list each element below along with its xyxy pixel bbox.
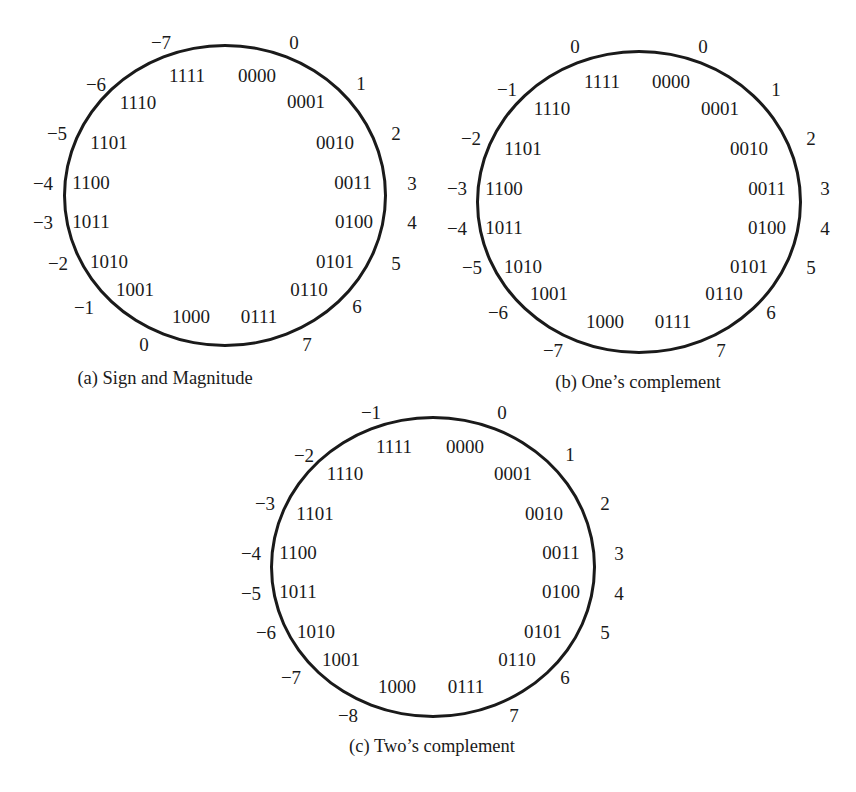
code-0111: 0111	[448, 677, 485, 696]
value-0110: 6	[560, 668, 570, 687]
value-1010: −6	[256, 623, 276, 642]
value-1000: −8	[338, 706, 358, 725]
code-0001: 0001	[494, 464, 532, 483]
code-1100: 1100	[279, 543, 316, 562]
value-0100: 4	[614, 584, 624, 603]
code-1001: 1001	[322, 650, 360, 669]
value-1100: −4	[241, 544, 261, 563]
code-1110: 1110	[327, 464, 364, 483]
code-1111: 1111	[376, 437, 412, 456]
value-1101: −3	[255, 494, 275, 513]
value-0111: 7	[509, 706, 519, 725]
value-1011: −5	[241, 584, 261, 603]
code-0101: 0101	[524, 622, 562, 641]
caption-twos-complement: (c) Two’s complement	[349, 737, 515, 756]
code-0011: 0011	[542, 543, 579, 562]
circle-twos-complement	[270, 416, 596, 718]
code-0110: 0110	[498, 650, 535, 669]
value-1111: −1	[361, 403, 381, 422]
code-0010: 0010	[525, 504, 563, 523]
code-1101: 1101	[296, 504, 333, 523]
value-0000: 0	[497, 403, 507, 422]
code-0000: 0000	[446, 437, 484, 456]
value-0010: 2	[600, 494, 610, 513]
value-1001: −7	[281, 668, 301, 687]
code-0100: 0100	[542, 582, 580, 601]
value-0001: 1	[565, 445, 575, 464]
value-0011: 3	[614, 544, 624, 563]
wheel-twos-complement: 0000 0001 0010 0011 0100 0101 0110 0111 …	[0, 0, 856, 792]
code-1000: 1000	[378, 677, 416, 696]
number-representation-figure: 0000 0001 0010 0011 0100 0101 0110 0111 …	[0, 0, 856, 792]
code-1010: 1010	[297, 622, 335, 641]
value-1110: −2	[294, 446, 314, 465]
code-1011: 1011	[279, 582, 316, 601]
value-0101: 5	[600, 623, 610, 642]
